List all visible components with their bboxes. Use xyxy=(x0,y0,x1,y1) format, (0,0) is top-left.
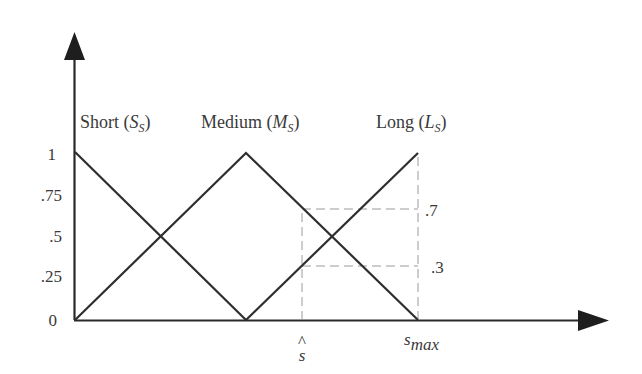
y-tick-05: .5 xyxy=(49,227,62,246)
membership-readouts: .7 .3 xyxy=(425,201,444,277)
label-long: Long (LS) xyxy=(376,112,447,135)
readout-03: .3 xyxy=(431,258,444,277)
axes xyxy=(64,32,609,331)
y-tick-1: 1 xyxy=(48,145,57,164)
curve-medium xyxy=(75,153,418,320)
y-tick-025: .25 xyxy=(41,267,62,286)
y-tick-0: 0 xyxy=(49,311,58,330)
y-tick-075: .75 xyxy=(41,186,62,205)
membership-curves xyxy=(75,152,418,320)
guides xyxy=(302,154,418,320)
label-medium: Medium (MS) xyxy=(201,112,300,135)
x-axis-marks: ^ s smax xyxy=(298,330,439,365)
s-max-label: smax xyxy=(404,330,439,354)
y-tick-labels: 1 .75 .5 .25 0 xyxy=(41,145,62,330)
x-axis-arrow-icon xyxy=(578,310,609,331)
y-axis-arrow-icon xyxy=(64,32,85,60)
readout-07: .7 xyxy=(425,201,438,220)
membership-diagram: 1 .75 .5 .25 0 Short (SS) Medium (MS) xyxy=(0,0,642,374)
set-labels: Short (SS) Medium (MS) Long (LS) xyxy=(80,112,447,135)
label-short: Short (SS) xyxy=(80,112,151,135)
s-hat-label: s xyxy=(299,346,306,365)
